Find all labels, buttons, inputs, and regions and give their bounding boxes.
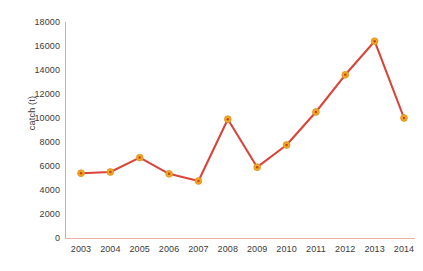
series-layer (0, 0, 423, 271)
data-point-marker-center (168, 173, 171, 176)
data-point-marker-center (138, 156, 141, 159)
data-point-marker-center (285, 144, 288, 147)
data-point-marker-center (403, 117, 406, 120)
data-point-marker-center (373, 40, 376, 43)
data-point-marker-center (315, 111, 318, 114)
data-point-marker-center (344, 74, 347, 77)
catch-line (81, 41, 404, 181)
line-chart: catch (t) 18000 16000 14000 12000 10000 … (0, 0, 423, 271)
data-point-marker-center (109, 171, 112, 174)
data-point-marker-center (227, 118, 230, 121)
data-point-marker-center (197, 180, 200, 183)
data-point-marker-center (80, 172, 83, 175)
data-point-marker-center (256, 166, 259, 169)
